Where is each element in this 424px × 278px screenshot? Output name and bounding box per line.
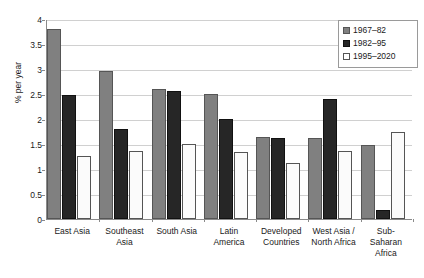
y-axis-tick-label: 2.5 [8, 91, 42, 100]
x-axis-tick-label: Sub-SaharanAfrica [360, 226, 412, 259]
bar-0 [99, 71, 113, 219]
y-axis-tick-label: 0 [8, 216, 42, 225]
x-axis-tick-label: South Asia [151, 226, 203, 237]
bar-1 [323, 99, 337, 219]
y-axis-tick-label: 3 [8, 66, 42, 75]
y-axis-tick-label: 1.5 [8, 141, 42, 150]
bar-0 [361, 145, 375, 220]
bar-1 [114, 129, 128, 219]
y-axis-tick-mark [42, 45, 45, 46]
y-axis-tick-label: 3.5 [8, 41, 42, 50]
y-axis-tick-mark [42, 95, 45, 96]
x-axis-tick-label: DevelopedCountries [255, 226, 307, 248]
y-axis-tick-mark [42, 220, 45, 221]
bar-group [152, 20, 204, 219]
legend-swatch-black-icon [343, 40, 350, 47]
bar-group [256, 20, 308, 219]
chart-legend: 1967–821982–951995–2020 [338, 20, 418, 68]
x-axis-tick-mark [413, 219, 414, 222]
x-axis-tick-label: West Asia /North Africa [307, 226, 359, 248]
y-axis-tick-label: 2 [8, 116, 42, 125]
bar-1 [271, 138, 285, 219]
bar-2 [391, 132, 405, 220]
x-axis-tick-label: LatinAmerica [203, 226, 255, 248]
x-axis-tick-labels: East AsiaSoutheastAsiaSouth AsiaLatinAme… [46, 226, 412, 274]
y-axis-tick-mark [42, 120, 45, 121]
bar-2 [338, 151, 352, 220]
bar-0 [256, 137, 270, 219]
x-axis-tick-mark [308, 219, 309, 222]
legend-label: 1995–2020 [353, 52, 396, 61]
legend-item: 1995–2020 [343, 50, 413, 63]
bar-1 [62, 95, 76, 219]
y-axis-tick-mark [42, 195, 45, 196]
y-axis-tick-mark [42, 170, 45, 171]
bar-chart: % per year 00.511.522.533.54 East AsiaSo… [0, 0, 424, 278]
bar-group [99, 20, 151, 219]
bar-2 [77, 156, 91, 219]
legend-swatch-gray-icon [343, 27, 350, 34]
y-axis-tick-labels: 00.511.522.533.54 [4, 20, 42, 220]
bar-0 [152, 89, 166, 219]
bar-0 [308, 138, 322, 219]
bar-1 [376, 210, 390, 219]
bar-2 [234, 152, 248, 219]
bar-group [204, 20, 256, 219]
x-axis-tick-mark [152, 219, 153, 222]
bar-0 [47, 29, 61, 219]
bar-1 [219, 119, 233, 219]
legend-label: 1967–82 [353, 26, 386, 35]
legend-label: 1982–95 [353, 39, 386, 48]
bar-2 [129, 151, 143, 220]
x-axis-tick-label: East Asia [46, 226, 98, 237]
bar-0 [204, 94, 218, 219]
x-axis-tick-mark [99, 219, 100, 222]
y-axis-tick-mark [42, 70, 45, 71]
x-axis-tick-mark [361, 219, 362, 222]
legend-item: 1967–82 [343, 24, 413, 37]
legend-swatch-white-icon [343, 53, 350, 60]
bar-2 [286, 163, 300, 220]
y-axis-tick-mark [42, 145, 45, 146]
x-axis-tick-mark [256, 219, 257, 222]
bar-1 [167, 91, 181, 219]
y-axis-tick-label: 1 [8, 166, 42, 175]
y-axis-tick-label: 4 [8, 16, 42, 25]
bar-2 [182, 144, 196, 220]
legend-item: 1982–95 [343, 37, 413, 50]
y-axis-tick-mark [42, 20, 45, 21]
x-axis-tick-label: SoutheastAsia [98, 226, 150, 248]
bar-group [47, 20, 99, 219]
x-axis-tick-mark [204, 219, 205, 222]
y-axis-tick-label: 0.5 [8, 191, 42, 200]
